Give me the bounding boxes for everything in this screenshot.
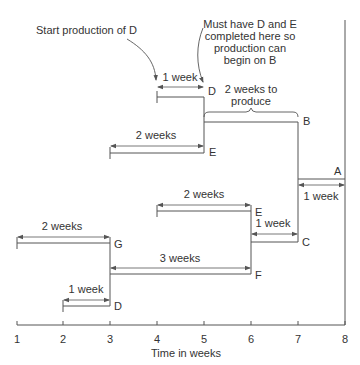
tick-label: 1 [14,333,20,345]
bar-e-middle: 2 weeks E [157,188,262,218]
svg-text:B: B [303,115,310,127]
svg-text:D: D [114,300,122,312]
svg-text:production can: production can [214,42,286,54]
svg-text:Must have D and E: Must have D and E [203,18,297,30]
svg-text:A: A [334,165,342,177]
svg-text:C: C [302,236,310,248]
svg-text:begin on B: begin on B [224,54,277,66]
arrow-icon [198,28,203,82]
bar-d-bottom: 1 week D [63,283,122,312]
brace-icon [204,108,298,117]
tick-label: 2 [60,333,66,345]
tick-label: 8 [342,333,348,345]
svg-text:2 weeks to: 2 weeks to [225,83,278,95]
svg-text:F: F [255,269,262,281]
tick-label: 5 [201,333,207,345]
tick-label: 4 [154,333,160,345]
axis-title: Time in weeks [151,347,221,359]
bar-c: 1 week C [251,217,310,248]
svg-text:1 week: 1 week [69,283,104,295]
bar-a: A 1 week [298,165,345,202]
svg-text:E: E [209,146,216,158]
svg-text:2 weeks: 2 weeks [184,188,225,200]
svg-text:2 weeks: 2 weeks [136,129,177,141]
svg-text:G: G [114,238,123,250]
assembly-time-chart: Start production of D Must have D and E … [0,0,360,365]
x-axis: 1 2 3 4 5 6 7 8 Time in weeks [14,321,348,359]
bar-f: 3 weeks F [110,252,262,281]
must-have-annotation: Must have D and E completed here so prod… [198,18,297,82]
svg-text:3 weeks: 3 weeks [160,252,201,264]
tick-label: 3 [107,333,113,345]
svg-text:produce: produce [231,95,271,107]
start-production-note: Start production of D [36,24,137,36]
svg-text:1 week: 1 week [256,217,291,229]
tick-label: 7 [295,333,301,345]
arrow-icon [127,39,156,80]
svg-text:2 weeks: 2 weeks [42,220,83,232]
start-production-annotation: Start production of D [36,24,156,80]
svg-text:completed here so: completed here so [205,30,296,42]
tick-label: 6 [248,333,254,345]
svg-text:1 week: 1 week [163,71,198,83]
bar-e-upper: 2 weeks E [110,129,216,159]
bar-g: 2 weeks G [17,220,123,250]
svg-text:1 week: 1 week [304,190,339,202]
svg-text:D: D [208,85,216,97]
bar-d-top: 1 week D [157,71,216,103]
